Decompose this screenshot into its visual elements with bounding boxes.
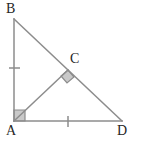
vertex-label-c: C bbox=[70, 52, 79, 66]
segment-ac bbox=[14, 70, 68, 121]
right-angle-marker-at-c bbox=[61, 70, 74, 83]
vertex-label-d: D bbox=[117, 124, 127, 138]
geometry-figure: B C A D bbox=[0, 0, 142, 142]
figure-canvas bbox=[0, 0, 142, 142]
vertex-label-a: A bbox=[6, 124, 16, 138]
vertex-label-b: B bbox=[6, 2, 15, 16]
